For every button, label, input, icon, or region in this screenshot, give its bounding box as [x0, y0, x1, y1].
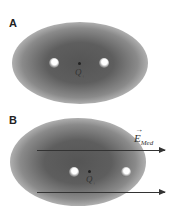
panel-a-label: A	[9, 17, 17, 29]
field-arrow-bottom	[37, 192, 165, 193]
field-label: →EMed	[134, 132, 153, 147]
field-arrow-top	[37, 150, 165, 151]
charge-center-b	[88, 170, 91, 173]
charge-label-a: Q+	[75, 67, 85, 79]
panel-b-label: B	[9, 114, 17, 126]
charge-label-b: Q+	[86, 174, 96, 186]
nucleus-right-b	[121, 167, 131, 177]
nucleus-left-b	[69, 167, 79, 177]
nucleus-left-a	[49, 58, 59, 68]
charge-center-a	[78, 62, 81, 65]
nucleus-right-a	[99, 58, 109, 68]
